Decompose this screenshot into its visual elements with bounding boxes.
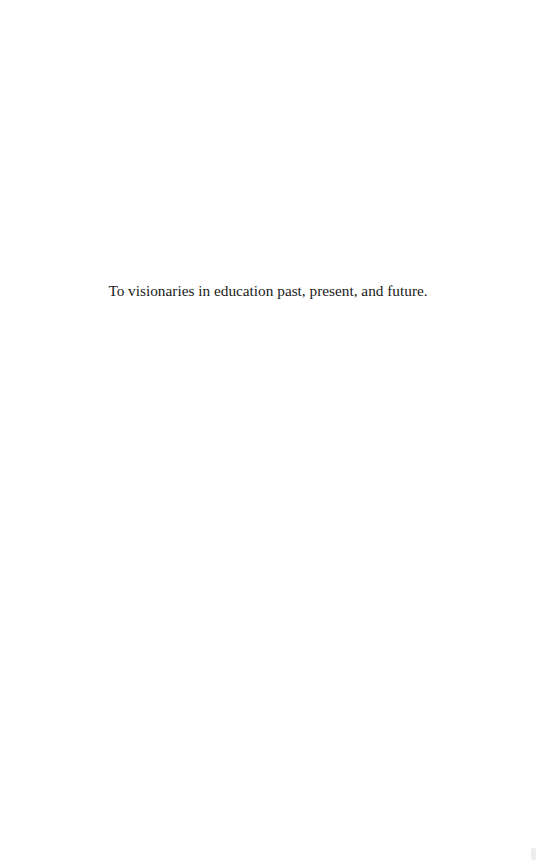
- dedication-text: To visionaries in education past, presen…: [0, 282, 538, 300]
- scan-artifact: [531, 848, 536, 860]
- dedication-page: To visionaries in education past, presen…: [0, 0, 538, 863]
